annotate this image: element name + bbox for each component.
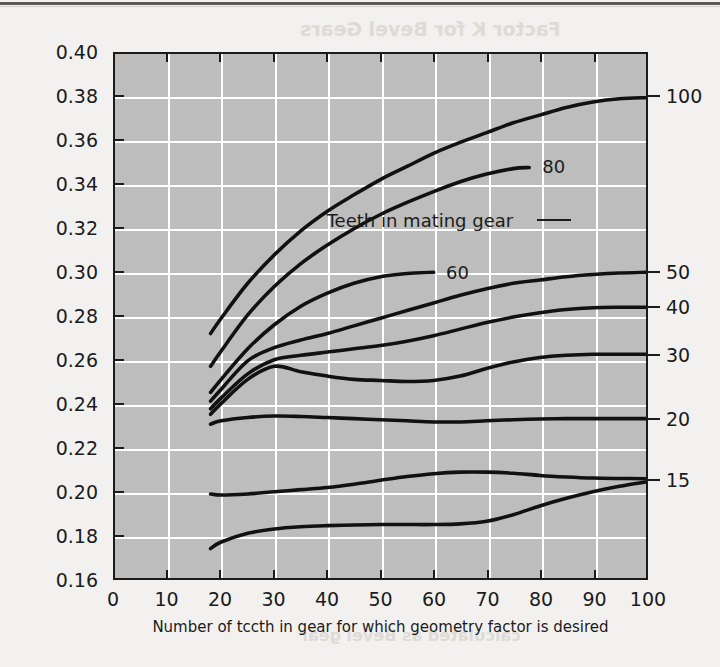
- x-tick-mark-top: [273, 52, 275, 62]
- x-tick-mark: [219, 570, 221, 580]
- x-tick-mark: [380, 570, 382, 580]
- page-rule-top-thin: [0, 6, 720, 7]
- x-tick-mark-top: [594, 52, 596, 62]
- bleed-through-text-1: Factor K for Bevel Gears: [300, 18, 560, 40]
- y-tick-label: 0.34: [0, 173, 98, 195]
- x-tick-mark: [433, 570, 435, 580]
- chart-page: Factor K for Bevel Gears calculated as B…: [0, 0, 720, 667]
- x-tick-label: 70: [475, 588, 499, 610]
- y-tick-label: 0.38: [0, 85, 98, 107]
- curve-20: [211, 416, 646, 424]
- x-tick-mark: [487, 570, 489, 580]
- series-label-30: 30: [666, 344, 690, 366]
- y-tick-label: 0.24: [0, 393, 98, 415]
- y-tick-mark: [113, 139, 124, 141]
- x-tick-label: 30: [261, 588, 285, 610]
- x-tick-mark-top: [326, 52, 328, 62]
- y-tick-label: 0.16: [0, 569, 98, 591]
- y-tick-mark: [113, 271, 124, 273]
- series-tick-20: [648, 418, 660, 420]
- y-tick-mark: [113, 359, 124, 361]
- series-tick-15: [648, 479, 660, 481]
- y-tick-label: 0.36: [0, 129, 98, 151]
- mating-gear-note-dash: [537, 219, 571, 221]
- y-tick-mark: [113, 403, 124, 405]
- y-tick-mark: [113, 491, 124, 493]
- x-tick-mark: [166, 570, 168, 580]
- x-tick-label: 10: [154, 588, 178, 610]
- y-tick-label: 0.40: [0, 41, 98, 63]
- y-tick-mark: [113, 95, 124, 97]
- x-tick-label: 100: [630, 588, 666, 610]
- y-tick-label: 0.20: [0, 481, 98, 503]
- curve-15: [211, 472, 646, 495]
- x-tick-label: 90: [582, 588, 606, 610]
- x-tick-mark-top: [166, 52, 168, 62]
- series-label-50: 50: [666, 261, 690, 283]
- x-tick-mark-top: [433, 52, 435, 62]
- y-tick-mark: [113, 447, 124, 449]
- y-tick-label: 0.32: [0, 217, 98, 239]
- series-tick-100: [648, 95, 660, 97]
- plot-area: [113, 52, 648, 580]
- y-tick-mark: [113, 227, 124, 229]
- x-tick-mark-top: [487, 52, 489, 62]
- x-tick-label: 40: [315, 588, 339, 610]
- y-tick-label: 0.28: [0, 305, 98, 327]
- series-label-15: 15: [666, 469, 690, 491]
- x-tick-label: 50: [368, 588, 392, 610]
- x-tick-mark-top: [540, 52, 542, 62]
- curve-layer: [115, 54, 646, 578]
- x-tick-mark: [273, 570, 275, 580]
- x-tick-mark: [594, 570, 596, 580]
- series-label-100: 100: [666, 85, 702, 107]
- y-tick-mark: [113, 315, 124, 317]
- y-tick-label: 0.22: [0, 437, 98, 459]
- x-tick-mark: [540, 570, 542, 580]
- series-inline-label-60: 60: [446, 262, 469, 283]
- series-label-40: 40: [666, 296, 690, 318]
- x-tick-mark-top: [380, 52, 382, 62]
- x-tick-label: 80: [529, 588, 553, 610]
- series-tick-50: [648, 271, 660, 273]
- y-tick-label: 0.18: [0, 525, 98, 547]
- series-inline-label-80: 80: [542, 156, 565, 177]
- series-label-20: 20: [666, 408, 690, 430]
- x-axis-label: Number of tccth in gear for which geomet…: [113, 618, 648, 636]
- x-tick-label: 60: [422, 588, 446, 610]
- x-tick-mark-top: [219, 52, 221, 62]
- y-tick-label: 0.26: [0, 349, 98, 371]
- curve-30: [211, 354, 646, 414]
- x-tick-mark: [326, 570, 328, 580]
- x-tick-label: 20: [208, 588, 232, 610]
- x-tick-label: 0: [107, 588, 119, 610]
- y-tick-mark: [113, 183, 124, 185]
- y-tick-label: 0.30: [0, 261, 98, 283]
- series-tick-40: [648, 306, 660, 308]
- y-tick-mark: [113, 535, 124, 537]
- page-rule-top: [0, 2, 720, 5]
- mating-gear-note: Teeth in mating gear: [327, 210, 514, 231]
- series-tick-30: [648, 354, 660, 356]
